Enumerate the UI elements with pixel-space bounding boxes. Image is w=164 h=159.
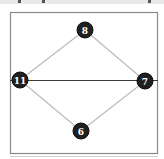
node-label: 7	[142, 77, 148, 87]
node-label: 8	[82, 26, 88, 36]
edge-7-6	[81, 81, 145, 131]
node-8: 8	[77, 22, 93, 38]
node-label: 6	[78, 127, 84, 137]
node-7: 7	[137, 73, 153, 89]
graph-diagram: 8 11 7 6	[0, 0, 164, 159]
node-11: 11	[12, 72, 28, 88]
node-label: 11	[14, 76, 27, 86]
edge-8-11	[20, 30, 85, 80]
bottom-divider	[10, 156, 158, 157]
edge-8-7	[85, 30, 145, 81]
node-6: 6	[73, 123, 89, 139]
edge-11-6	[20, 80, 81, 131]
